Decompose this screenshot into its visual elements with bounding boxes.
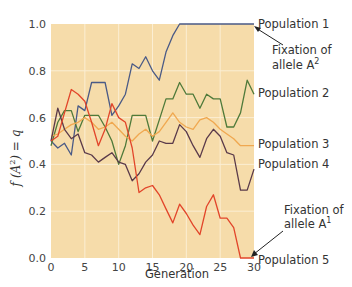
y-tick-label: 0.6 (29, 112, 47, 125)
annotation-fixation-a2-line1: Fixation of (272, 43, 333, 57)
series-label-population-3: Population 3 (258, 137, 329, 151)
annotation-fixation-a1-line1: Fixation of (284, 203, 345, 217)
y-tick-label: 0.8 (29, 65, 47, 78)
y-tick-label: 1.0 (29, 18, 47, 31)
y-tick-label: 0.0 (29, 252, 47, 265)
y-axis-label-main: f (A (9, 164, 23, 187)
chart: 0.00.20.40.60.81.0 051015202530 Generati… (0, 0, 352, 287)
x-axis-label: Generation (145, 267, 209, 281)
x-tick-label: 5 (81, 261, 88, 274)
y-axis-label: f (A2) = q (8, 129, 23, 187)
annotation-fixation-a2-line2: allele A2 (272, 57, 319, 72)
y-axis-ticks: 0.00.20.40.60.81.0 (29, 18, 47, 265)
x-tick-label: 25 (213, 261, 227, 274)
x-tick-label: 10 (112, 261, 126, 274)
series-label-population-1: Population 1 (258, 17, 329, 31)
y-tick-label: 0.4 (29, 158, 47, 171)
series-label-population-4: Population 4 (258, 157, 329, 171)
series-label-population-2: Population 2 (258, 86, 329, 100)
annotation-arrow-a1 (254, 231, 283, 254)
annotation-fixation-a1-line2: allele A1 (284, 216, 331, 231)
y-tick-label: 0.2 (29, 205, 47, 218)
x-tick-label: 0 (48, 261, 55, 274)
series-label-population-5: Population 5 (258, 253, 329, 267)
y-axis-label-rest: ) = q (9, 129, 23, 160)
